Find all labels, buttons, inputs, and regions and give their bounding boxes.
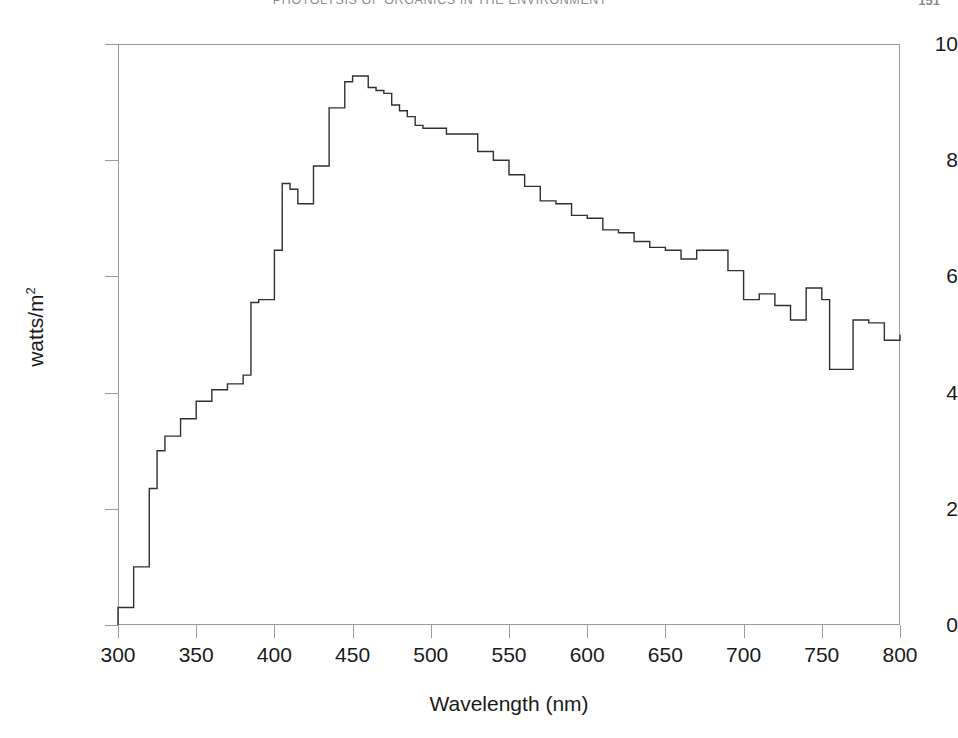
- y-axis-title: watts/m2: [24, 247, 48, 407]
- x-axis-tick-label: 800: [855, 644, 945, 666]
- x-axis-tick: [196, 625, 197, 638]
- y-axis-tick: [105, 393, 118, 394]
- x-axis-tick: [509, 625, 510, 638]
- x-axis-tick: [822, 625, 823, 638]
- x-axis-tick: [665, 625, 666, 638]
- y-axis-title-exponent: 2: [23, 287, 38, 294]
- x-axis-tick: [900, 625, 901, 638]
- y-axis-tick: [105, 509, 118, 510]
- x-axis-tick-label: 600: [542, 644, 632, 666]
- y-axis-tick-label: 8: [872, 149, 958, 170]
- y-axis-tick-label: 6: [872, 265, 958, 286]
- x-axis-tick-label: 300: [73, 644, 163, 666]
- x-axis-title: Wavelength (nm): [118, 692, 900, 716]
- y-axis-tick: [105, 44, 118, 45]
- x-axis-tick: [118, 625, 119, 638]
- plot-area: [118, 44, 900, 625]
- y-axis-tick-label: 0: [872, 614, 958, 635]
- x-axis-tick: [274, 625, 275, 638]
- y-axis-tick: [105, 160, 118, 161]
- y-axis-tick: [105, 276, 118, 277]
- x-axis-tick: [587, 625, 588, 638]
- x-axis-tick-label: 700: [699, 644, 789, 666]
- y-axis-tick-label: 4: [872, 382, 958, 403]
- x-axis-tick: [431, 625, 432, 638]
- x-axis-tick: [353, 625, 354, 638]
- x-axis-tick-label: 550: [464, 644, 554, 666]
- x-axis-tick-label: 450: [308, 644, 398, 666]
- y-axis-tick-label: 10: [872, 33, 958, 54]
- y-axis-tick-label: 2: [872, 498, 958, 519]
- x-axis-tick-label: 750: [777, 644, 867, 666]
- y-axis-title-base: watts/m: [24, 294, 47, 366]
- data-series-line: [118, 76, 900, 625]
- x-axis-tick: [744, 625, 745, 638]
- x-axis-tick-label: 350: [151, 644, 241, 666]
- x-axis-tick-label: 650: [620, 644, 710, 666]
- x-axis-tick-label: 400: [229, 644, 319, 666]
- spectral-irradiance-chart: 0246810 30035040045050055060065070075080…: [0, 0, 958, 738]
- y-axis-tick: [105, 625, 118, 626]
- x-axis-tick-label: 500: [386, 644, 476, 666]
